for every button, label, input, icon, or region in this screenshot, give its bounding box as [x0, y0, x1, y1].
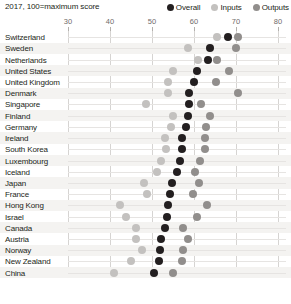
row-baseline: [68, 93, 286, 94]
country-label: South Korea: [5, 145, 48, 154]
data-point-outputs: [179, 224, 187, 232]
chart-row: Canada: [0, 222, 291, 233]
country-label: New Zealand: [5, 257, 51, 266]
country-label: Switzerland: [5, 33, 45, 42]
data-point-inputs: [164, 78, 172, 86]
country-label: United States: [5, 66, 51, 75]
country-label: Ireland: [5, 134, 28, 143]
data-point-overall: [204, 56, 212, 64]
data-point-outputs: [234, 89, 242, 97]
row-baseline: [68, 228, 286, 229]
row-baseline: [68, 205, 286, 206]
data-point-overall: [161, 224, 169, 232]
chart-row: Ireland: [0, 132, 291, 143]
row-baseline: [68, 104, 286, 105]
chart-row: Finland: [0, 110, 291, 121]
row-baseline: [68, 138, 286, 139]
axis-tick-label: 40: [106, 17, 114, 26]
dot-plot-chart: 2017, 100=maximum score Overall Inputs O…: [0, 0, 291, 304]
chart-row: Hong Kong: [0, 200, 291, 211]
data-point-overall: [164, 201, 172, 209]
country-label: Netherlands: [5, 55, 47, 64]
data-point-overall: [178, 145, 186, 153]
country-label: Sweden: [5, 44, 33, 53]
country-label: Israel: [5, 212, 24, 221]
data-point-overall: [176, 157, 184, 165]
row-baseline: [68, 116, 286, 117]
data-point-outputs: [201, 145, 209, 153]
plot-area: 304050607080SwitzerlandSwedenNetherlands…: [0, 0, 291, 304]
data-point-overall: [193, 67, 201, 75]
data-point-inputs: [132, 235, 140, 243]
row-baseline: [68, 217, 286, 218]
data-point-inputs: [213, 33, 221, 41]
data-point-overall: [224, 33, 232, 41]
data-point-outputs: [191, 168, 199, 176]
data-point-outputs: [202, 123, 210, 131]
axis-tick-label: 80: [274, 17, 282, 26]
data-point-inputs: [169, 112, 177, 120]
chart-row: Switzerland: [0, 32, 291, 43]
axis-tick-label: 60: [190, 17, 198, 26]
data-point-outputs: [195, 179, 203, 187]
country-label: Iceland: [5, 167, 30, 176]
country-label: Germany: [5, 122, 37, 131]
chart-row: New Zealand: [0, 256, 291, 267]
data-point-overall: [150, 269, 158, 277]
data-point-inputs: [116, 201, 124, 209]
tick-mark-40: [110, 27, 111, 31]
country-label: Denmark: [5, 89, 36, 98]
data-point-outputs: [232, 44, 240, 52]
axis-tick-label: 50: [148, 17, 156, 26]
chart-row: Austria: [0, 233, 291, 244]
data-point-inputs: [162, 145, 170, 153]
chart-row: Sweden: [0, 43, 291, 54]
data-point-inputs: [161, 134, 169, 142]
data-point-outputs: [201, 134, 209, 142]
data-point-overall: [206, 44, 214, 52]
data-point-inputs: [127, 257, 135, 265]
data-point-inputs: [132, 224, 140, 232]
country-label: Austria: [5, 235, 29, 244]
row-baseline: [68, 48, 286, 49]
data-point-inputs: [184, 44, 192, 52]
row-baseline: [68, 82, 286, 83]
tick-mark-60: [194, 27, 195, 31]
country-label: United Kingdom: [5, 77, 60, 86]
chart-row: Norway: [0, 245, 291, 256]
row-baseline: [68, 127, 286, 128]
data-point-inputs: [138, 246, 146, 254]
chart-row: Singapore: [0, 99, 291, 110]
country-label: Finland: [5, 111, 30, 120]
data-point-inputs: [164, 89, 172, 97]
data-point-outputs: [184, 235, 192, 243]
data-point-overall: [190, 78, 198, 86]
data-point-overall: [185, 89, 193, 97]
data-point-outputs: [193, 213, 201, 221]
chart-row: Denmark: [0, 88, 291, 99]
chart-row: South Korea: [0, 144, 291, 155]
data-point-outputs: [206, 112, 214, 120]
data-point-inputs: [157, 157, 165, 165]
country-label: Hong Kong: [5, 201, 44, 210]
data-point-outputs: [225, 67, 233, 75]
data-point-overall: [163, 213, 171, 221]
data-point-overall: [166, 190, 174, 198]
tick-mark-80: [278, 27, 279, 31]
data-point-outputs: [234, 33, 242, 41]
row-baseline: [68, 239, 286, 240]
data-point-overall: [178, 134, 186, 142]
row-baseline: [68, 71, 286, 72]
chart-row: Germany: [0, 121, 291, 132]
data-point-inputs: [143, 190, 151, 198]
row-baseline: [68, 194, 286, 195]
data-point-overall: [182, 123, 190, 131]
tick-mark-70: [236, 27, 237, 31]
data-point-outputs: [203, 201, 211, 209]
data-point-overall: [155, 257, 163, 265]
tick-mark-50: [152, 27, 153, 31]
chart-row: France: [0, 189, 291, 200]
chart-row: Netherlands: [0, 54, 291, 65]
data-point-overall: [185, 100, 193, 108]
data-point-outputs: [197, 100, 205, 108]
